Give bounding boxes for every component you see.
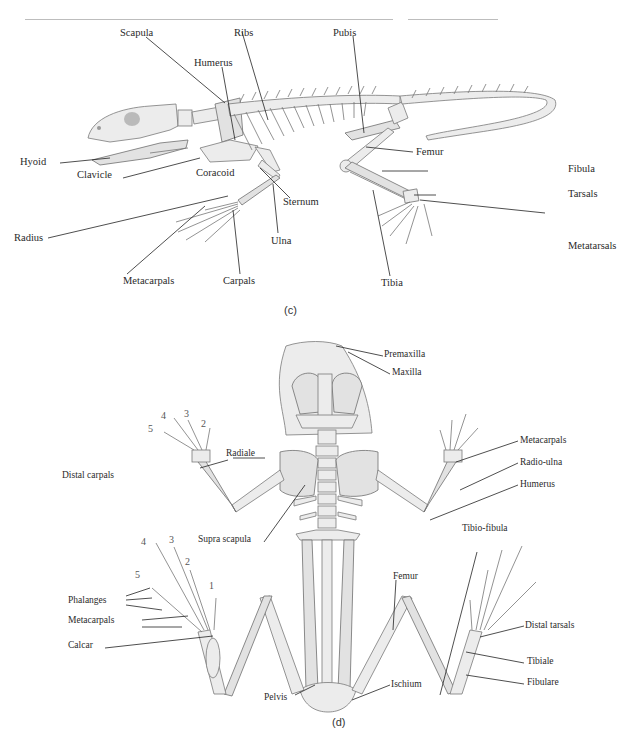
label-radiale: Radiale <box>226 449 255 459</box>
fore-digit-5: 5 <box>148 424 153 434</box>
hind-digit-4: 4 <box>141 537 146 547</box>
label-ribs: Ribs <box>234 28 253 39</box>
label-premaxilla: Premaxilla <box>384 350 425 360</box>
label-fibulare: Fibulare <box>527 678 559 688</box>
label-tibia: Tibia <box>381 278 403 289</box>
hind-digit-3: 3 <box>169 535 174 545</box>
caption-c: (c) <box>284 304 297 316</box>
label-tibiale: Tibiale <box>527 657 554 667</box>
label-femur: Femur <box>416 147 443 158</box>
label-ischium: Ischium <box>391 680 422 690</box>
label-maxilla: Maxilla <box>392 368 422 378</box>
label-sternum: Sternum <box>283 197 319 208</box>
label-hyoid: Hyoid <box>20 157 46 168</box>
label-phalanges: Phalanges <box>68 596 107 606</box>
label-scapula: Scapula <box>120 28 153 39</box>
fore-digit-4: 4 <box>161 411 166 421</box>
hind-digit-2: 2 <box>185 557 190 567</box>
label-metacarpals-hind: Metacarpals <box>68 616 114 626</box>
salamander-skeleton <box>88 84 556 244</box>
label-fibula: Fibula <box>568 164 595 175</box>
label-radio-ulna: Radio-ulna <box>520 458 562 468</box>
label-distal-carpals: Distal carpals <box>62 471 114 481</box>
label-metatarsals: Metatarsals <box>568 241 616 252</box>
label-metacarpals-d: Metacarpals <box>520 436 566 446</box>
label-humerus: Humerus <box>194 58 233 69</box>
hind-digit-5: 5 <box>135 570 140 580</box>
fore-digit-3: 3 <box>184 409 189 419</box>
label-carpals: Carpals <box>223 276 255 287</box>
caption-d: (d) <box>332 716 345 728</box>
label-metacarpals-c: Metacarpals <box>123 276 174 287</box>
label-pelvis: Pelvis <box>264 693 287 703</box>
hind-digit-1: 1 <box>209 581 214 591</box>
label-coracoid: Coracoid <box>196 168 235 179</box>
label-clavicle: Clavicle <box>77 170 112 181</box>
label-supra-scapula: Supra scapula <box>198 535 251 545</box>
label-humerus-d: Humerus <box>520 480 555 490</box>
label-ulna: Ulna <box>271 236 291 247</box>
fore-digit-2: 2 <box>201 419 206 429</box>
label-tarsals: Tarsals <box>568 189 598 200</box>
label-pubis: Pubis <box>333 28 356 39</box>
label-radius: Radius <box>14 233 43 244</box>
label-distal-tarsals: Distal tarsals <box>525 621 574 631</box>
label-calcar: Calcar <box>68 641 93 651</box>
label-tibio-fibula: Tibio-fibula <box>462 524 508 534</box>
label-femur-d: Femur <box>393 572 418 582</box>
